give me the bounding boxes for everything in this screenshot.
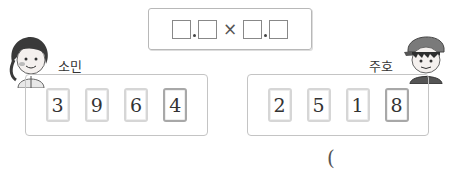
number-card[interactable]: 4 [163,88,187,122]
times-operator: × [223,21,237,38]
player-name-juho: 주호 [369,56,393,75]
decimal-point [264,34,267,37]
number-card[interactable]: 8 [385,88,409,122]
blank-box-2[interactable] [198,20,217,39]
number-card[interactable]: 6 [124,88,148,122]
juho-card-panel: 2 5 1 8 [247,74,429,136]
player-name-somin: 소민 [58,56,82,75]
blank-box-3[interactable] [243,20,262,39]
number-card[interactable]: 1 [346,88,370,122]
number-card[interactable]: 9 [85,88,109,122]
decimal-point [193,34,196,37]
number-card[interactable]: 5 [307,88,331,122]
somin-card-panel: 3 9 6 4 [25,74,208,136]
expression-box: × [148,8,312,50]
blank-box-1[interactable] [172,20,191,39]
number-card[interactable]: 3 [46,88,70,122]
blank-box-4[interactable] [269,20,288,39]
number-card[interactable]: 2 [268,88,292,122]
answer-open-paren: ( [327,146,335,170]
